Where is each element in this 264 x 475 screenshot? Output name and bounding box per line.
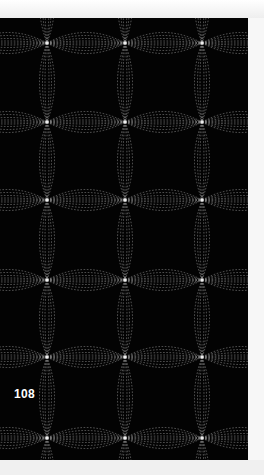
page-top-margin bbox=[0, 0, 264, 18]
page-right-margin bbox=[248, 18, 264, 460]
stitch-pattern-illustration: 108 bbox=[0, 18, 248, 460]
stitch-pattern-svg bbox=[0, 18, 248, 460]
page-bottom-margin bbox=[0, 460, 264, 475]
page-number: 108 bbox=[14, 387, 35, 401]
